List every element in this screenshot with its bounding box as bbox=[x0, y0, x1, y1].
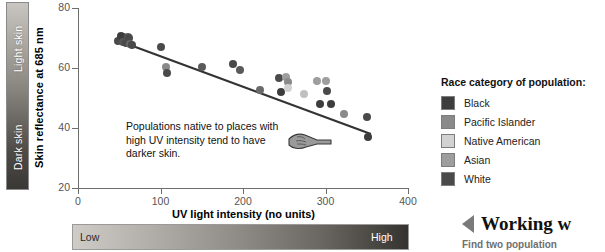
data-point bbox=[364, 133, 372, 141]
y-tick-label: 80 bbox=[44, 1, 70, 13]
data-point bbox=[236, 66, 244, 74]
triangle-bullet-icon bbox=[462, 215, 474, 233]
uv-intensity-gradient-bar bbox=[72, 224, 409, 250]
legend-swatch bbox=[441, 96, 455, 110]
legend-item: Asian bbox=[441, 151, 605, 169]
legend-swatch bbox=[441, 172, 455, 186]
x-tick-label: 400 bbox=[393, 195, 423, 207]
data-point bbox=[229, 60, 237, 68]
legend-label: Native American bbox=[464, 135, 540, 147]
legend-item: Pacific Islander bbox=[441, 113, 605, 131]
legend: Race category of population: BlackPacifi… bbox=[441, 76, 605, 189]
x-tick-label: 300 bbox=[311, 195, 341, 207]
legend-title: Race category of population: bbox=[441, 76, 605, 88]
data-point bbox=[198, 63, 206, 71]
legend-items: BlackPacific IslanderNative AmericanAsia… bbox=[441, 94, 605, 188]
working-with-data-title: Working w bbox=[481, 213, 571, 235]
x-tick-label: 100 bbox=[146, 195, 176, 207]
uv-scale-high-label: High bbox=[371, 231, 393, 243]
uv-scale-low-label: Low bbox=[80, 231, 99, 243]
working-with-data-block: Working w Find two population bbox=[462, 213, 605, 250]
legend-label: Asian bbox=[464, 154, 490, 166]
data-point bbox=[300, 90, 308, 98]
legend-swatch bbox=[441, 115, 455, 129]
x-tick bbox=[408, 188, 409, 194]
y-tick-label: 40 bbox=[44, 121, 70, 133]
x-axis-title: UV light intensity (no units) bbox=[78, 208, 409, 220]
annotation-text: Populations native to places with high U… bbox=[126, 120, 286, 161]
legend-label: White bbox=[464, 173, 491, 185]
legend-item: Black bbox=[441, 94, 605, 112]
data-point bbox=[256, 86, 264, 94]
legend-item: White bbox=[441, 170, 605, 188]
skin-scale-dark-label: Dark skin bbox=[6, 112, 29, 182]
scatter-plot-area bbox=[78, 8, 408, 188]
skin-scale-light-label: Light skin bbox=[6, 14, 29, 84]
legend-swatch bbox=[441, 153, 455, 167]
y-axis-title: Skin reflectance at 685 nm bbox=[30, 18, 47, 178]
legend-label: Black bbox=[464, 97, 490, 109]
x-tick bbox=[161, 188, 162, 194]
y-tick-label: 20 bbox=[44, 181, 70, 193]
x-tick bbox=[326, 188, 327, 194]
data-point bbox=[363, 113, 371, 121]
pointing-hand-icon bbox=[287, 130, 335, 154]
y-tick-label: 60 bbox=[44, 61, 70, 73]
x-tick-label: 200 bbox=[228, 195, 258, 207]
legend-item: Native American bbox=[441, 132, 605, 150]
x-tick bbox=[78, 188, 79, 194]
x-tick-label: 0 bbox=[63, 195, 93, 207]
legend-label: Pacific Islander bbox=[464, 116, 535, 128]
data-point bbox=[313, 77, 321, 85]
x-tick bbox=[243, 188, 244, 194]
working-with-data-heading: Working w bbox=[462, 213, 605, 235]
data-point bbox=[157, 43, 165, 51]
data-point bbox=[322, 77, 330, 85]
data-point bbox=[316, 100, 324, 108]
working-with-data-subtitle: Find two population bbox=[462, 239, 605, 250]
legend-swatch bbox=[441, 134, 455, 148]
data-point bbox=[340, 110, 348, 118]
